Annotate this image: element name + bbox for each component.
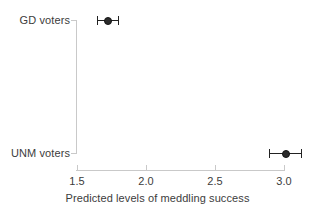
x-axis-tick-2 xyxy=(146,165,147,170)
confidence-interval-cap-high xyxy=(118,16,119,25)
point-estimate-dot xyxy=(104,17,112,25)
confidence-interval-cap-low xyxy=(97,16,98,25)
confidence-interval-cap-high xyxy=(301,149,302,158)
x-axis-tick-label-2: 2.0 xyxy=(126,175,166,187)
y-axis-tick-unm-voters xyxy=(71,153,76,154)
x-axis-tick-label-4: 3.0 xyxy=(264,175,304,187)
x-axis-tick-1 xyxy=(77,165,78,170)
category-label-gd-voters: GD voters xyxy=(0,14,70,26)
x-axis-tick-label-3: 2.5 xyxy=(195,175,235,187)
x-axis-tick-label-1: 1.5 xyxy=(57,175,97,187)
confidence-interval-cap-low xyxy=(269,149,270,158)
y-axis-tick-gd-voters xyxy=(71,20,76,21)
x-axis-line xyxy=(76,170,285,171)
x-axis-tick-3 xyxy=(215,165,216,170)
x-axis-tick-4 xyxy=(284,165,285,170)
point-estimate-dot xyxy=(282,150,290,158)
dot-and-whisker-plot: GD voters UNM voters 1.5 2.0 2.5 3.0 Pre… xyxy=(0,0,315,214)
y-axis-line xyxy=(76,20,77,154)
x-axis-title: Predicted levels of meddling success xyxy=(0,192,315,204)
category-label-unm-voters: UNM voters xyxy=(0,147,70,159)
